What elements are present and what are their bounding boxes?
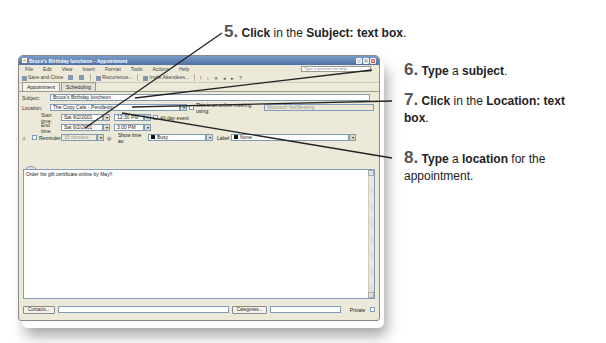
online-meeting-checkbox[interactable] [189,105,194,110]
step-number: 7. [404,90,418,109]
start-time-dropdown[interactable]: ▾ [144,114,151,121]
all-day-checkbox[interactable] [153,115,158,120]
callout-step-6: 6. Type a subject. [404,60,507,80]
notes-text: Order his gift certificate online by May… [26,171,112,177]
window-title: Bruce's Birthday luncheon - Appointment [29,58,356,64]
scroll-up-button[interactable] [368,170,374,176]
categories-input[interactable] [270,306,340,313]
categories-button[interactable]: Categories... [232,306,268,314]
callout-step-7: 7. Click in the Location: text box. [404,91,565,127]
delete-icon[interactable]: ✕ [214,75,218,81]
appointment-window: Bruce's Birthday luncheon - Appointment … [18,55,380,321]
reminder-row: ♫ Reminder: 15 minutes ▾ ◎ Show time as:… [19,133,379,142]
end-date-input[interactable]: Sat 6/2/2001 [61,124,103,131]
tab-strip: Appointment Scheduling [19,83,379,92]
recurrence-button[interactable]: Recurrence... [96,74,132,80]
reminder-select[interactable]: 15 minutes [61,134,97,141]
reminder-checkbox[interactable] [32,135,37,140]
minimize-button[interactable]: _ [356,58,362,64]
start-date-dropdown[interactable]: ▾ [103,114,110,121]
menu-format[interactable]: Format [105,66,121,72]
invite-icon [143,76,148,81]
maximize-button[interactable]: □ [363,58,369,64]
previous-icon[interactable]: ◂ [223,75,226,81]
show-time-select[interactable]: Busy [148,134,206,141]
label-select[interactable]: None [231,134,349,141]
next-icon[interactable]: ▸ [231,75,234,81]
end-date-dropdown[interactable]: ▾ [103,124,110,131]
private-checkbox[interactable] [370,307,375,312]
scroll-down-button[interactable] [368,292,374,298]
subject-label: Subject: [22,95,50,101]
toolbar-separator [194,74,195,81]
end-time-row: End time: Sat 6/2/2001 ▾ 3:00 PM ▾ [19,123,379,132]
menu-bar: File Edit View Insert Format Tools Actio… [19,65,379,73]
invite-attendees-button[interactable]: Invite Attendees... [143,74,189,80]
all-day-label: All day event [160,115,189,121]
step-number: 8. [404,148,418,167]
recurrence-icon [96,76,101,81]
menu-insert[interactable]: Insert [82,66,95,72]
location-label: Location: [22,105,50,111]
close-button[interactable]: × [370,58,376,64]
end-time-dropdown[interactable]: ▾ [144,124,151,131]
title-bar[interactable]: Bruce's Birthday luncheon - Appointment … [19,56,379,65]
contacts-button[interactable]: Contacts... [23,306,55,314]
appointment-icon [22,58,27,63]
menu-actions[interactable]: Actions [152,66,168,72]
end-time-input[interactable]: 3:00 PM [114,124,144,131]
bell-icon: ♫ [22,135,30,141]
help-icon[interactable]: ? [239,75,242,81]
online-meeting-select[interactable]: Microsoft NetMeeting [264,104,374,111]
reminder-dropdown[interactable]: ▾ [97,134,104,141]
contacts-input[interactable] [58,306,229,313]
importance-high-icon[interactable]: ! [200,75,201,81]
importance-low-icon[interactable]: ↓ [206,75,209,81]
location-dropdown[interactable]: ▾ [180,104,187,111]
menu-help[interactable]: Help [179,66,189,72]
save-icon [22,76,27,81]
show-time-label: Show time as: [118,132,148,144]
end-time-label: End time: [41,122,61,134]
toolbar-separator [90,74,91,81]
attach-icon[interactable] [79,75,84,80]
step-number: 6. [404,60,418,79]
online-meeting-label: This is an online meeting using: [196,102,264,114]
menu-file[interactable]: File [25,66,33,72]
label-dropdown[interactable]: ▾ [349,134,356,141]
menu-edit[interactable]: Edit [43,66,52,72]
sound-icon[interactable]: ◎ [104,135,114,141]
print-icon[interactable] [68,75,73,80]
notes-scrollbar[interactable] [368,170,374,298]
notes-textarea[interactable]: Order his gift certificate online by May… [23,169,375,299]
private-label: Private [350,307,366,313]
location-input[interactable]: The Copy Cafe - Pendleton [50,104,180,111]
help-search-input[interactable]: Type a question for help [301,66,371,72]
reminder-label: Reminder: [39,135,61,141]
start-time-input[interactable]: 12:30 PM [114,114,144,121]
bottom-bar: Contacts... Categories... Private [23,305,377,314]
step-number: 5. [224,22,238,41]
callout-step-5: 5. Click in the Subject: text box. [224,22,406,42]
toolbar-separator [137,74,138,81]
label-label: Label: [217,135,231,141]
start-date-input[interactable]: Sat 6/2/2001 [61,114,103,121]
tab-scheduling[interactable]: Scheduling [61,82,96,91]
subject-input[interactable]: Bruce's Birthday luncheon [50,94,370,101]
callout-step-8: 8. Type a location for the appointment. [404,149,545,185]
location-row: Location: The Copy Cafe - Pendleton ▾ Th… [19,103,379,112]
menu-view[interactable]: View [62,66,73,72]
label-color-swatch [234,135,238,139]
busy-color-swatch [151,135,155,139]
start-time-row: Start time: Sat 6/2/2001 ▾ 12:30 PM ▾ Al… [19,113,379,122]
save-and-close-button[interactable]: Save and Close [22,74,63,80]
show-time-dropdown[interactable]: ▾ [206,134,213,141]
tab-appointment[interactable]: Appointment [22,82,60,91]
menu-tools[interactable]: Tools [131,66,143,72]
